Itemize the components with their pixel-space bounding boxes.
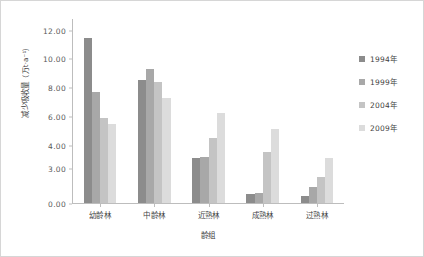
bar-group: 过熟林: [290, 19, 344, 203]
chart-legend: 1994年1999年2004年2009年: [359, 53, 397, 133]
bar-group-bars: [84, 19, 117, 203]
y-axis-title-text: 减少吸收量: [21, 82, 30, 118]
y-axis-tick-mark: [69, 204, 72, 205]
bar: [200, 157, 208, 203]
x-axis-tick-label: 中龄林: [143, 209, 165, 220]
bar-groups: 幼龄林中龄林近熟林成熟林过熟林: [73, 19, 344, 203]
bar: [271, 129, 279, 203]
bar: [263, 152, 271, 203]
x-axis-tick-label: 幼龄林: [89, 209, 111, 220]
chart-figure: 减少吸收量（万t·a⁻¹） 12.0010.008.006.004.003.00…: [0, 0, 424, 257]
legend-item-label: 2004年: [370, 99, 397, 110]
y-axis-tick-mark: [69, 168, 72, 169]
legend-item[interactable]: 1999年: [359, 76, 397, 87]
bar: [325, 158, 333, 203]
legend-item-label: 1994年: [370, 53, 397, 64]
y-axis-tick-mark: [69, 88, 72, 89]
legend-item[interactable]: 2004年: [359, 99, 397, 110]
x-axis-tick-label: 成熟林: [252, 209, 274, 220]
y-axis-tick-mark: [69, 117, 72, 118]
x-axis-title: 龄组: [72, 229, 344, 240]
legend-swatch-icon: [359, 79, 365, 85]
y-axis-tick-label: 10.00: [43, 55, 72, 64]
y-axis-tick-label: 12.00: [43, 26, 72, 35]
bar: [309, 187, 317, 203]
plot-area: 12.0010.008.006.004.003.000.00 幼龄林中龄林近熟林…: [72, 19, 344, 204]
bar: [146, 69, 154, 203]
x-axis-tick-mark: [263, 204, 264, 207]
bar: [92, 92, 100, 203]
bar: [162, 98, 170, 204]
bar-group: 成熟林: [236, 19, 290, 203]
bar: [100, 118, 108, 203]
bar: [209, 138, 217, 203]
bar: [84, 38, 92, 203]
bar-group-bars: [301, 19, 334, 203]
bar: [246, 194, 254, 203]
y-axis-title: 减少吸收量（万t·a⁻¹）: [19, 6, 30, 156]
legend-item[interactable]: 2009年: [359, 122, 397, 133]
bar: [108, 124, 116, 203]
y-axis-tick-mark: [69, 30, 72, 31]
bar: [317, 177, 325, 203]
bar-group-bars: [138, 19, 171, 203]
bar-group: 近熟林: [181, 19, 235, 203]
legend-item-label: 2009年: [370, 122, 397, 133]
bar-group-bars: [246, 19, 279, 203]
bar: [217, 113, 225, 203]
x-axis-tick-mark: [317, 204, 318, 207]
legend-swatch-icon: [359, 56, 365, 62]
y-axis-tick-mark: [69, 146, 72, 147]
legend-item-label: 1999年: [370, 76, 397, 87]
x-axis-tick-mark: [154, 204, 155, 207]
bar-group: 幼龄林: [73, 19, 127, 203]
legend-swatch-icon: [359, 125, 365, 131]
y-axis-tick-mark: [69, 59, 72, 60]
bar: [301, 196, 309, 203]
legend-swatch-icon: [359, 102, 365, 108]
x-axis-tick-mark: [100, 204, 101, 207]
bar-group: 中龄林: [127, 19, 181, 203]
bar: [154, 82, 162, 203]
bar-group-bars: [192, 19, 225, 203]
legend-item[interactable]: 1994年: [359, 53, 397, 64]
bar: [192, 158, 200, 203]
y-axis-unit: （万t·a⁻¹）: [22, 43, 30, 81]
bar: [255, 193, 263, 203]
x-axis-tick-label: 过熟林: [306, 209, 328, 220]
bar: [138, 80, 146, 203]
x-axis-tick-label: 近熟林: [198, 209, 220, 220]
x-axis-tick-mark: [209, 204, 210, 207]
